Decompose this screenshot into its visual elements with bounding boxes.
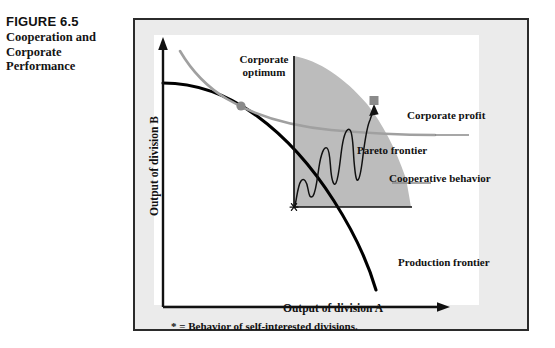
- figure-title: Cooperation and Corporate Performance: [6, 30, 124, 74]
- figure-number: FIGURE 6.5: [6, 14, 124, 29]
- figure-box: Corporate optimum Corporate profit Paret…: [133, 18, 529, 331]
- figure-footnote: * = Behavior of self-interested division…: [171, 320, 358, 332]
- pareto-frontier-marker: [370, 96, 379, 105]
- figure-title-line-1: Cooperation and: [6, 30, 124, 45]
- figure-title-line-2: Corporate: [6, 45, 124, 60]
- y-axis-label: Output of division B: [148, 101, 160, 231]
- label-corporate-optimum: Corporate optimum: [227, 53, 301, 78]
- label-production-frontier: Production frontier: [398, 256, 490, 269]
- label-pareto-frontier: Pareto frontier: [357, 144, 427, 157]
- y-axis-arrow-icon: [158, 37, 168, 50]
- corporate-optimum-marker: [236, 101, 245, 110]
- figure-title-line-3: Performance: [6, 59, 124, 74]
- label-cooperative-behavior: Cooperative behavior: [389, 172, 491, 185]
- label-corporate-profit: Corporate profit: [407, 109, 485, 122]
- x-axis-label: Output of division A: [135, 302, 531, 314]
- figure-caption: FIGURE 6.5 Cooperation and Corporate Per…: [6, 14, 124, 74]
